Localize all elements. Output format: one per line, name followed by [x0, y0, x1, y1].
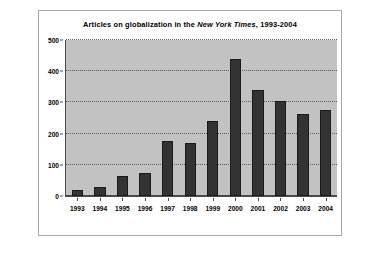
- x-tick-mark: [168, 198, 169, 201]
- y-tick-mark: [60, 40, 63, 41]
- x-tick-slot: 1998: [179, 198, 202, 220]
- x-tick-label-1993: 1993: [66, 205, 89, 212]
- chart-title-suffix: , 1993-2004: [256, 20, 297, 29]
- bar-1998: [185, 143, 196, 196]
- bar-slot: [89, 40, 112, 196]
- x-tick-label-2000: 2000: [224, 205, 247, 212]
- chart-figure: Articles on globalization in the New Yor…: [38, 10, 342, 236]
- x-tick-slot: 2002: [269, 198, 292, 220]
- x-tick-mark: [190, 198, 191, 201]
- bar-slot: [247, 40, 270, 196]
- y-tick-label: 300: [48, 99, 59, 106]
- y-tick-mark: [60, 102, 63, 103]
- bar-slot: [201, 40, 224, 196]
- bar-slot: [66, 40, 89, 196]
- bar-2001: [252, 90, 263, 196]
- y-tick-mark: [60, 196, 63, 197]
- x-tick-label-1998: 1998: [179, 205, 202, 212]
- x-tick-slot: 1993: [66, 198, 89, 220]
- y-tick-label: 400: [48, 68, 59, 75]
- bar-slot: [179, 40, 202, 196]
- x-tick-label-2003: 2003: [292, 205, 315, 212]
- bar-2000: [230, 59, 241, 196]
- x-tick-label-2001: 2001: [247, 205, 270, 212]
- bar-2002: [275, 101, 286, 196]
- x-tick-slot: 2004: [314, 198, 337, 220]
- x-tick-label-2002: 2002: [269, 205, 292, 212]
- x-tick-mark: [258, 198, 259, 201]
- y-tick-mark: [60, 133, 63, 134]
- chart-title-prefix: Articles on globalization in the: [83, 20, 197, 29]
- bar-slot: [224, 40, 247, 196]
- x-tick-slot: 2001: [247, 198, 270, 220]
- chart-title-publication: New York Times: [197, 20, 256, 29]
- bar-slot: [111, 40, 134, 196]
- x-tick-label-2004: 2004: [314, 205, 337, 212]
- x-tick-mark: [280, 198, 281, 201]
- x-tick-mark: [145, 198, 146, 201]
- x-tick-mark: [100, 198, 101, 201]
- x-tick-slot: 1999: [201, 198, 224, 220]
- bar-slot: [269, 40, 292, 196]
- x-tick-slot: 1997: [156, 198, 179, 220]
- y-tick-label: 100: [48, 161, 59, 168]
- x-tick-mark: [122, 198, 123, 201]
- y-axis: 0100200300400500: [39, 40, 63, 196]
- x-tick-slot: 2000: [224, 198, 247, 220]
- y-tick-label: 0: [55, 193, 59, 200]
- bar-slot: [134, 40, 157, 196]
- x-tick-mark: [303, 198, 304, 201]
- x-tick-label-1999: 1999: [201, 205, 224, 212]
- bar-slot: [292, 40, 315, 196]
- x-tick-slot: 1995: [111, 198, 134, 220]
- y-tick-mark: [60, 164, 63, 165]
- bar-series: [66, 40, 337, 196]
- y-tick-mark: [60, 71, 63, 72]
- x-tick-mark: [77, 198, 78, 201]
- x-axis: 1993199419951996199719981999200020012002…: [66, 198, 337, 220]
- x-tick-slot: 1996: [134, 198, 157, 220]
- chart-title: Articles on globalization in the New Yor…: [39, 20, 341, 29]
- x-tick-slot: 1994: [89, 198, 112, 220]
- bar-1999: [207, 121, 218, 196]
- x-tick-mark: [235, 198, 236, 201]
- bar-2004: [320, 110, 331, 196]
- bar-slot: [314, 40, 337, 196]
- bar-1994: [94, 187, 105, 196]
- x-tick-mark: [326, 198, 327, 201]
- bar-1995: [117, 176, 128, 196]
- bar-1997: [162, 141, 173, 196]
- x-tick-label-1996: 1996: [134, 205, 157, 212]
- plot-area: [65, 40, 337, 197]
- x-tick-slot: 2003: [292, 198, 315, 220]
- bar-1996: [139, 173, 150, 196]
- bar-1993: [72, 190, 83, 196]
- bar-slot: [156, 40, 179, 196]
- bar-2003: [297, 114, 308, 196]
- x-tick-mark: [213, 198, 214, 201]
- x-tick-label-1997: 1997: [156, 205, 179, 212]
- x-tick-label-1994: 1994: [89, 205, 112, 212]
- y-tick-label: 500: [48, 37, 59, 44]
- y-tick-label: 200: [48, 130, 59, 137]
- x-tick-label-1995: 1995: [111, 205, 134, 212]
